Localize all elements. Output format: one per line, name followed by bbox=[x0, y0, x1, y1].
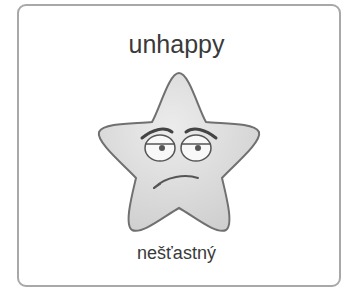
card-translation: nešťastný bbox=[0, 243, 353, 264]
card-title: unhappy bbox=[0, 30, 353, 59]
unhappy-star-icon bbox=[94, 70, 264, 235]
